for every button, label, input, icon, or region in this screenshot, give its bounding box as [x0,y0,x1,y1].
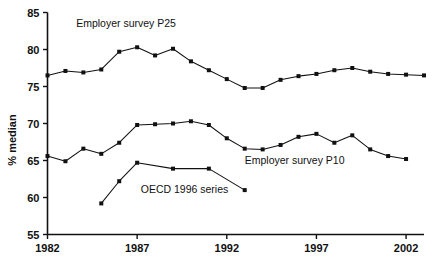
data-point-marker [153,53,157,57]
y-tick-label: 80 [27,44,39,56]
data-point-marker [99,152,103,156]
data-point-marker [117,179,121,183]
data-point-marker [297,135,301,139]
y-tick-label: 55 [27,229,39,241]
data-point-marker [314,132,318,136]
data-point-marker [46,154,50,158]
data-point-marker [422,73,426,77]
data-point-marker [404,157,408,161]
data-point-marker [171,167,175,171]
data-point-marker [135,45,139,49]
data-point-marker [171,122,175,126]
data-point-marker [243,86,247,90]
chart-container: 55606570758085 19821987199219972002 % me… [0,0,443,268]
data-point-marker [189,119,193,123]
line-chart: 55606570758085 19821987199219972002 % me… [0,0,443,268]
data-point-marker [261,147,265,151]
data-point-marker [99,201,103,205]
data-point-marker [171,47,175,51]
data-point-marker [63,159,67,163]
series-2 [46,119,409,163]
data-point-marker [117,141,121,145]
y-tick-label: 65 [27,155,39,167]
data-point-marker [99,67,103,71]
data-point-marker [243,147,247,151]
data-point-marker [297,74,301,78]
x-tick-label: 1992 [215,242,239,254]
data-point-marker [243,188,247,192]
series-line [48,47,425,88]
data-point-marker [332,68,336,72]
data-point-marker [207,123,211,127]
data-point-marker [350,133,354,137]
y-axis-ticks: 55606570758085 [27,7,47,241]
y-tick-label: 75 [27,81,39,93]
series-annotation-2: Employer survey P10 [245,154,345,166]
data-point-marker [135,123,139,127]
data-point-marker [279,78,283,82]
series-layer [46,45,427,205]
y-tick-label: 60 [27,192,39,204]
x-axis-ticks: 19821987199219972002 [35,235,418,254]
series-1 [46,45,427,90]
data-point-marker [81,70,85,74]
data-point-marker [332,141,336,145]
y-axis-title: % median [6,114,18,166]
data-point-marker [207,167,211,171]
data-point-marker [225,77,229,81]
data-point-marker [386,72,390,76]
data-point-marker [225,136,229,140]
x-tick-label: 1997 [304,242,328,254]
data-point-marker [279,143,283,147]
data-point-marker [63,69,67,73]
data-point-marker [46,73,50,77]
data-point-marker [261,86,265,90]
data-point-marker [368,147,372,151]
data-point-marker [189,59,193,63]
y-tick-label: 85 [27,7,39,19]
data-point-marker [81,147,85,151]
x-tick-label: 1987 [125,242,149,254]
data-point-marker [350,66,354,70]
data-point-marker [207,68,211,72]
data-point-marker [314,72,318,76]
series-annotation-1: Employer survey P25 [76,17,176,29]
x-tick-label: 2002 [394,242,418,254]
data-point-marker [135,161,139,165]
series-annotation-3: OECD 1996 series [141,183,229,195]
data-point-marker [404,73,408,77]
data-point-marker [117,50,121,54]
y-tick-label: 70 [27,118,39,130]
x-tick-label: 1982 [35,242,59,254]
data-point-marker [153,122,157,126]
data-point-marker [368,70,372,74]
data-point-marker [386,154,390,158]
